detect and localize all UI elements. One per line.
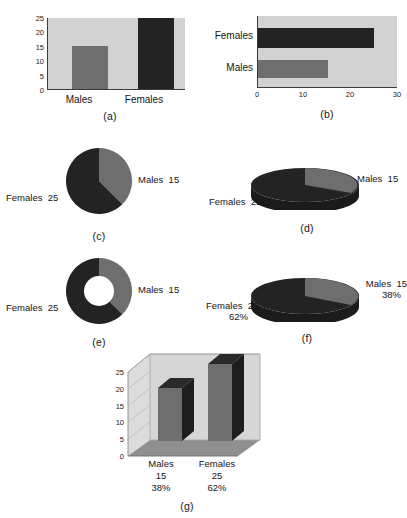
y-tick-10: 10 <box>36 57 44 66</box>
doughnut-e-graphic <box>66 258 132 324</box>
doughnut-e-label-males: Males 15 <box>138 284 179 295</box>
x-tick-20: 20 <box>346 90 354 99</box>
pie-d-label-males: Males 15 <box>357 173 398 184</box>
x-tick-10: 10 <box>299 90 307 99</box>
caption-f: (f) <box>277 332 337 344</box>
caption-d: (d) <box>277 222 337 234</box>
y-tick-0: 0 <box>40 86 44 95</box>
bar3d-females-front <box>208 364 232 441</box>
bar-females <box>138 18 174 89</box>
g-y-tick-20: 20 <box>106 385 124 394</box>
x-label-females: Females <box>113 94 175 105</box>
caption-a: (a) <box>80 110 140 122</box>
x-label-males: Males <box>53 94 105 105</box>
panel-a-plot-area <box>47 18 185 90</box>
g-y-tick-25: 25 <box>106 368 124 377</box>
bar3d-males-side <box>182 378 194 441</box>
pie-f-label-males: Males 15 <box>363 278 407 289</box>
bar-males <box>72 46 108 89</box>
caption-g: (g) <box>157 500 217 512</box>
panel-c-pie-chart: Males 15 Females 25 (c) <box>0 130 200 250</box>
caption-e: (e) <box>69 336 129 348</box>
y-tick-15: 15 <box>36 42 44 51</box>
g-x-percent-males: 38% <box>133 482 189 494</box>
y-label-males: Males <box>205 62 253 73</box>
pie-d-graphic <box>245 160 365 210</box>
pie-c-label-males: Males 15 <box>138 174 179 185</box>
g-x-label-males: Males <box>133 458 189 470</box>
y-tick-25: 25 <box>36 14 44 23</box>
hbar-males <box>258 60 328 78</box>
caption-b: (b) <box>297 108 357 120</box>
g-x-percent-females: 62% <box>188 482 246 494</box>
floor <box>128 440 260 456</box>
panel-a-y-axis: 25 20 15 10 5 0 <box>26 18 44 90</box>
g-x-label-females: Females <box>188 458 246 470</box>
x-tick-0: 0 <box>255 90 259 99</box>
g-y-tick-5: 5 <box>106 435 124 444</box>
g-x-value-males: 15 <box>133 470 189 482</box>
bar3d-males-front <box>158 388 182 441</box>
panel-d-3d-pie-chart: Males 15 Females 25 (d) <box>205 130 407 250</box>
pie-c-label-females: Females 25 <box>6 192 58 203</box>
bar3d-females <box>208 354 244 441</box>
bar3d-females-side <box>232 354 244 441</box>
pie-f-label-females: Females 25 <box>206 300 258 311</box>
panel-g-graphic <box>100 352 315 472</box>
pie-d-label-females: Females 25 <box>209 196 261 207</box>
panel-b-horizontal-bar-chart: Females Males 0 10 20 30 (b) <box>205 4 407 126</box>
pie-f-percent-males: 38% <box>363 289 401 300</box>
pie-f-graphic <box>245 270 365 322</box>
panel-g-3d-bar-chart: 25 20 15 10 5 0 Males 15 38% Females 25 … <box>100 352 315 518</box>
g-y-tick-10: 10 <box>106 418 124 427</box>
pie-f-percent-females: 62% <box>229 311 248 322</box>
x-tick-30: 30 <box>393 90 401 99</box>
doughnut-e-label-females: Females 25 <box>6 302 58 313</box>
y-label-females: Females <box>205 30 253 41</box>
hbar-females <box>258 28 374 48</box>
bar3d-males <box>158 378 194 441</box>
g-y-tick-0: 0 <box>106 452 124 461</box>
g-y-tick-15: 15 <box>106 402 124 411</box>
g-x-value-females: 25 <box>188 470 246 482</box>
pie-c-graphic <box>66 148 132 214</box>
caption-c: (c) <box>69 230 129 242</box>
y-tick-20: 20 <box>36 28 44 37</box>
y-tick-5: 5 <box>40 71 44 80</box>
panel-b-plot-area <box>257 16 397 88</box>
panel-a-vertical-bar-chart: 25 20 15 10 5 0 Males Females (a) <box>0 4 200 126</box>
